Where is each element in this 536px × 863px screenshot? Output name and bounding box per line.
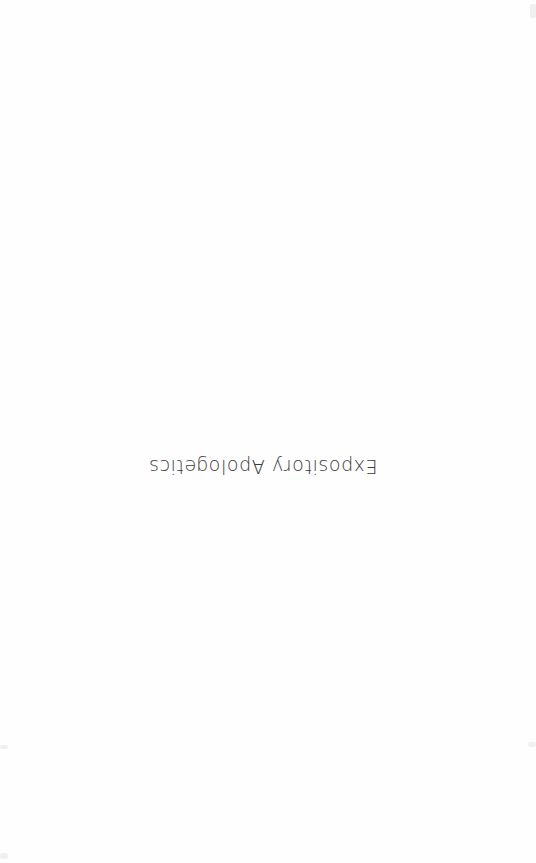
scan-artifact bbox=[528, 742, 536, 747]
scan-artifact bbox=[0, 745, 8, 749]
book-title: Expository Apologetics bbox=[160, 454, 366, 480]
book-page: Expository Apologetics bbox=[0, 0, 536, 863]
scan-artifact bbox=[530, 4, 536, 18]
scan-artifact bbox=[0, 853, 8, 859]
